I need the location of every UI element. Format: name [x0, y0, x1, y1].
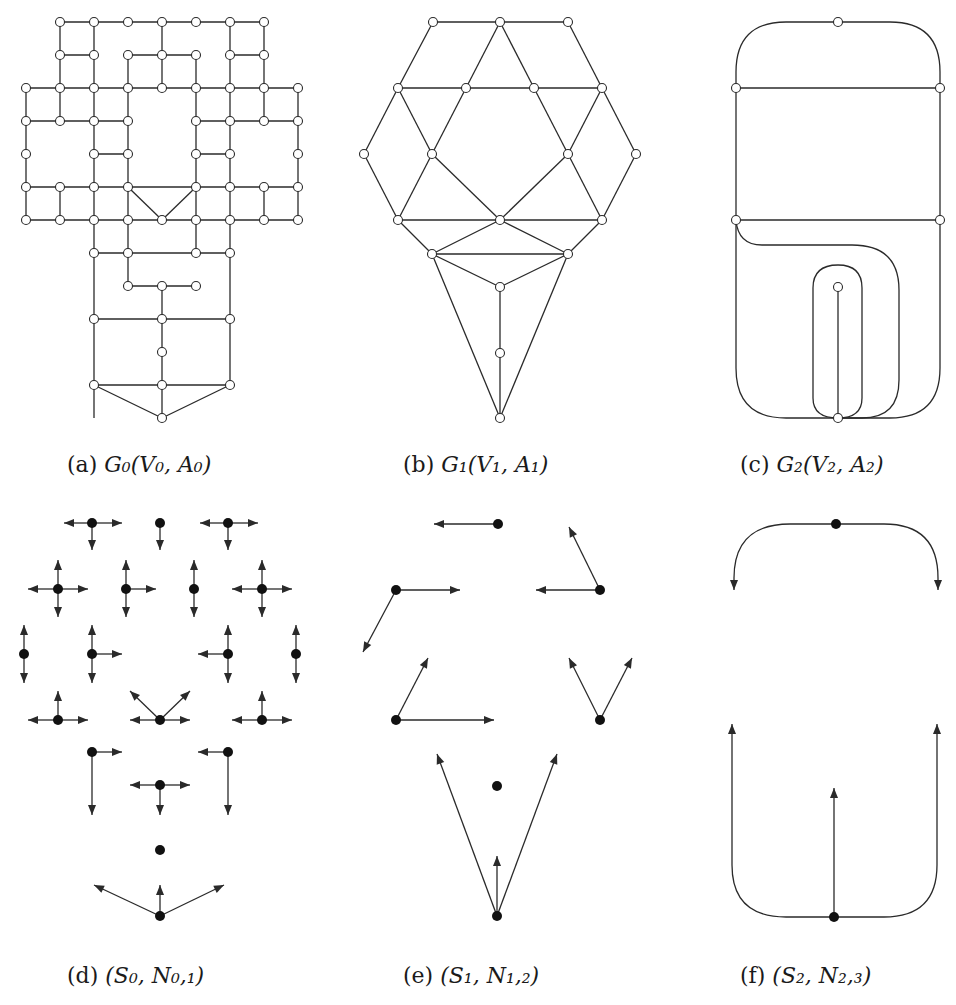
- vertex: [53, 715, 63, 725]
- vertex: [158, 18, 167, 27]
- arrowhead-icon: [493, 856, 501, 866]
- vertex: [158, 216, 167, 225]
- edge: [736, 220, 899, 418]
- vertex: [595, 715, 605, 725]
- vertex: [56, 84, 65, 93]
- edge: [432, 254, 500, 418]
- vertex: [260, 216, 269, 225]
- vertex: [56, 183, 65, 192]
- panel-e-neighborhood-S1: [363, 519, 632, 921]
- arrowhead-icon: [88, 625, 96, 635]
- vertex: [428, 250, 437, 259]
- arrowhead-icon: [180, 781, 190, 789]
- edge: [568, 22, 602, 88]
- edge: [94, 885, 160, 916]
- arrowhead-icon: [54, 560, 62, 570]
- vertex: [22, 84, 31, 93]
- vertex: [394, 216, 403, 225]
- vertex: [391, 585, 401, 595]
- vertex: [564, 250, 573, 259]
- vertex: [732, 216, 741, 225]
- vertex: [192, 183, 201, 192]
- caption-math: G₂(V₂, A₂): [777, 452, 884, 477]
- arrowhead-icon: [292, 673, 300, 683]
- vertex: [124, 51, 133, 60]
- arrowhead-icon: [258, 560, 266, 570]
- vertex: [22, 150, 31, 159]
- panel-a-graph-G0: [22, 18, 303, 423]
- edge: [432, 220, 500, 254]
- edge: [432, 254, 500, 287]
- vertex: [226, 216, 235, 225]
- vertex: [158, 414, 167, 423]
- arrowhead-icon: [112, 519, 122, 527]
- edge: [162, 187, 196, 220]
- arrowhead-icon: [78, 585, 88, 593]
- caption-f: (f) (S₂, N₂,₃): [740, 963, 871, 988]
- arrowhead-icon: [232, 716, 242, 724]
- arrowhead-icon: [190, 607, 198, 617]
- vertex: [260, 117, 269, 126]
- vertex: [428, 150, 437, 159]
- vertex: [56, 216, 65, 225]
- edge: [734, 524, 836, 590]
- vertex: [360, 150, 369, 159]
- arrowhead-icon: [728, 724, 736, 734]
- arrowhead-icon: [730, 580, 738, 590]
- vertex: [294, 84, 303, 93]
- arrowhead-icon: [88, 540, 96, 550]
- vertex: [564, 18, 573, 27]
- panel-b-graph-G1: [360, 18, 641, 423]
- vertex: [595, 585, 605, 595]
- arrowhead-icon: [94, 885, 105, 893]
- vertex: [834, 283, 843, 292]
- edge: [128, 187, 162, 220]
- arrowhead-icon: [130, 781, 140, 789]
- edge: [398, 220, 432, 254]
- arrowhead-icon: [28, 716, 38, 724]
- vertex: [87, 747, 97, 757]
- caption-math: (S₂, N₂,₃): [772, 963, 871, 988]
- panel-c-graph-G2: [732, 18, 945, 423]
- arrowhead-icon: [64, 519, 74, 527]
- edge: [732, 724, 834, 917]
- vertex: [158, 84, 167, 93]
- vertex: [496, 414, 505, 423]
- caption-math: (S₁, N₁,₂): [440, 963, 539, 988]
- edge: [500, 22, 534, 88]
- arrowhead-icon: [198, 650, 208, 658]
- vertex: [260, 51, 269, 60]
- edge: [568, 220, 602, 254]
- caption-tag: (a): [67, 452, 97, 477]
- arrowhead-icon: [248, 519, 258, 527]
- edge: [568, 154, 602, 220]
- vertex: [158, 315, 167, 324]
- arrowhead-icon: [569, 658, 577, 669]
- arrowhead-icon: [282, 716, 292, 724]
- arrowhead-icon: [200, 519, 210, 527]
- arrowhead-icon: [536, 586, 546, 594]
- caption-c: (c) G₂(V₂, A₂): [740, 452, 883, 477]
- arrowhead-icon: [550, 754, 558, 765]
- arrowhead-icon: [292, 625, 300, 635]
- edge: [364, 154, 398, 220]
- vertex: [226, 315, 235, 324]
- edge: [398, 22, 433, 88]
- vertex: [294, 183, 303, 192]
- vertex: [158, 282, 167, 291]
- edge: [398, 88, 432, 154]
- arrowhead-icon: [146, 585, 156, 593]
- vertex: [87, 649, 97, 659]
- arrowhead-icon: [112, 748, 122, 756]
- vertex: [496, 349, 505, 358]
- vertex: [53, 584, 63, 594]
- vertex: [90, 18, 99, 27]
- arrowhead-icon: [282, 585, 292, 593]
- caption-tag: (b): [403, 452, 434, 477]
- arrowhead-icon: [933, 724, 941, 734]
- vertex: [22, 183, 31, 192]
- vertex: [294, 117, 303, 126]
- caption-b: (b) G₁(V₁, A₁): [403, 452, 548, 477]
- vertex: [732, 84, 741, 93]
- vertex: [226, 18, 235, 27]
